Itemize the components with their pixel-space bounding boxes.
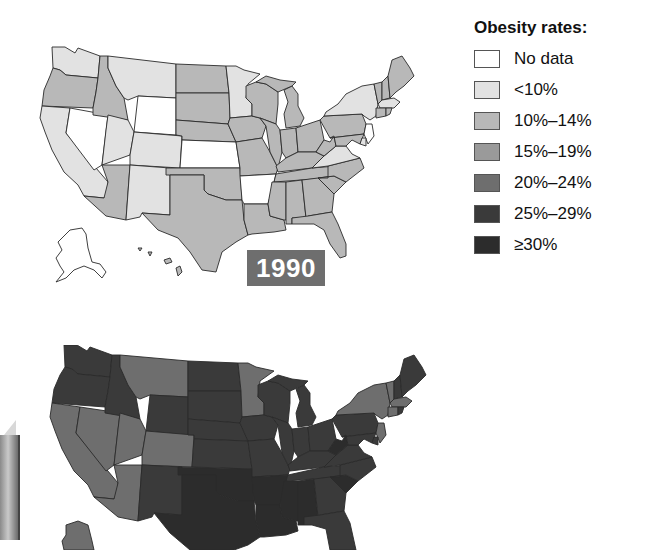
us-states-2010 [30, 345, 440, 550]
us-states-1990 [30, 20, 440, 310]
state-CT [376, 108, 386, 118]
state-ME [388, 56, 414, 98]
state-UT [114, 413, 146, 465]
state-UT [102, 115, 134, 165]
state-NM [126, 165, 170, 220]
state-FL [304, 511, 356, 550]
legend-swatch [474, 81, 500, 99]
state-ME [400, 355, 426, 397]
legend-label: ≥30% [514, 235, 557, 255]
state-NY [336, 383, 390, 419]
state-RI [398, 407, 404, 415]
legend-swatch [474, 112, 500, 130]
legend-label: 10%–14% [514, 111, 592, 131]
state-ND [176, 64, 229, 93]
legend-item-lt10: <10% [474, 78, 644, 101]
state-KS [180, 140, 240, 168]
decorative-shape [0, 435, 20, 540]
legend-label: 20%–24% [514, 173, 592, 193]
legend-label: 25%–29% [514, 204, 592, 224]
state-CT [388, 407, 398, 417]
us-map-2010 [30, 345, 440, 550]
legend-swatch [474, 143, 500, 161]
legend-item-15-19: 15%–19% [474, 140, 644, 163]
state-ND [188, 361, 241, 391]
legend-title: Obesity rates: [474, 18, 644, 38]
state-WY [146, 395, 188, 435]
state-HI [138, 248, 182, 276]
legend-item-ge30: ≥30% [474, 233, 644, 256]
year-badge-1990: 1990 [247, 250, 325, 286]
state-CO [130, 132, 182, 168]
state-WY [134, 96, 176, 135]
state-SD [176, 93, 230, 124]
legend-item-25-29: 25%–29% [474, 202, 644, 225]
state-MI [284, 86, 304, 128]
state-KS [192, 439, 252, 469]
legend-swatch [474, 205, 500, 223]
legend-label: No data [514, 49, 574, 69]
legend-swatch [474, 50, 500, 68]
state-NY [324, 84, 378, 120]
legend: Obesity rates: No data <10% 10%–14% 15%–… [474, 18, 644, 264]
legend-item-no-data: No data [474, 47, 644, 70]
state-MS [268, 182, 286, 220]
state-MI [296, 385, 316, 427]
legend-swatch [474, 174, 500, 192]
state-SD [188, 391, 242, 423]
state-AK [62, 521, 94, 550]
state-CO [142, 431, 194, 467]
legend-label: <10% [514, 80, 558, 100]
us-map-1990 [30, 20, 440, 310]
state-AK [56, 228, 106, 282]
legend-swatch [474, 236, 500, 254]
legend-item-20-24: 20%–24% [474, 171, 644, 194]
state-RI [386, 108, 392, 116]
legend-item-10-14: 10%–14% [474, 109, 644, 132]
legend-label: 15%–19% [514, 142, 592, 162]
state-NM [138, 465, 182, 521]
state-MS [280, 481, 298, 521]
